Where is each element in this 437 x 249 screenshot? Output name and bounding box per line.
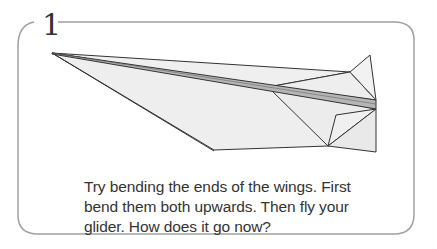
instruction-text: Try bending the ends of the wings. First… — [84, 177, 374, 237]
